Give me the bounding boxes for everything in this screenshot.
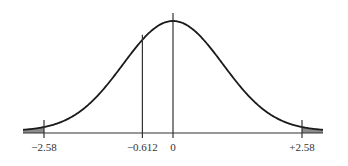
tick-label-plus-2-58: +2.58 bbox=[289, 141, 314, 153]
tick-label-minus-0-612: −0.612 bbox=[127, 141, 158, 153]
marker-lines bbox=[44, 13, 302, 138]
normal-distribution-diagram: −2.58 −0.612 0 +2.58 bbox=[0, 0, 348, 166]
tick-label-minus-2-58: −2.58 bbox=[31, 141, 56, 153]
tick-label-zero: 0 bbox=[170, 141, 176, 153]
